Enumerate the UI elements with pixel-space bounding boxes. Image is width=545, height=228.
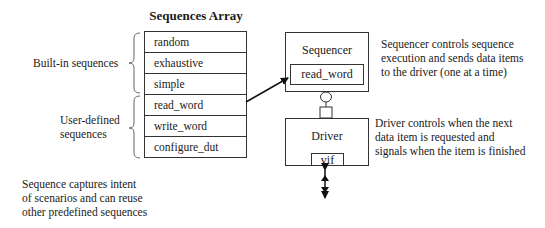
seq-item-export-icon	[321, 92, 332, 102]
user-defined-brace-icon	[129, 96, 140, 158]
diagram-graphics	[0, 0, 545, 228]
seq-item-port-icon	[320, 107, 332, 118]
builtin-brace-icon	[129, 33, 140, 93]
read-word-to-sequencer-arrow-icon	[246, 78, 288, 102]
